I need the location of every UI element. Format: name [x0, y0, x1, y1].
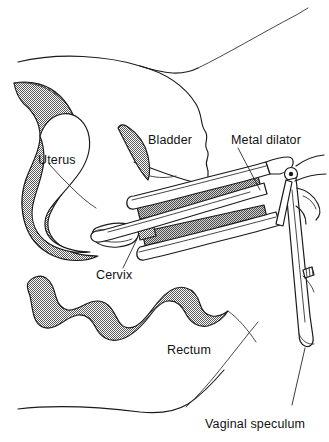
thumb-contour: [295, 174, 326, 181]
thigh-contour-line: [198, 8, 308, 68]
rectum-shaded-body: [27, 276, 228, 340]
uterus-structure: [14, 82, 98, 260]
rectum-structure: [27, 276, 256, 342]
vaginal-speculum-leader-line: [292, 348, 305, 405]
bladder-outer-wall: [140, 66, 209, 185]
bladder-structure: [118, 66, 209, 185]
label-rectum: Rectum: [167, 343, 211, 357]
abdominal-wall-contour: [18, 56, 198, 73]
finger-middle: [297, 188, 320, 220]
illustration-figure: Uterus Bladder Cervix Rectum Metal dilat…: [0, 0, 329, 442]
structure-labels: Uterus Bladder Cervix Rectum Metal dilat…: [38, 133, 305, 431]
lower-body-contour: [18, 370, 224, 413]
label-vaginal-speculum: Vaginal speculum: [205, 417, 305, 431]
label-metal-dilator: Metal dilator: [231, 133, 301, 147]
speculum-handle: [287, 178, 313, 347]
illustration-canvas: Uterus Bladder Cervix Rectum Metal dilat…: [0, 0, 329, 442]
perineum-contour: [186, 322, 258, 407]
rectum-anal-canal: [228, 311, 256, 342]
uterus-cavity: [32, 114, 90, 253]
label-bladder: Bladder: [148, 133, 192, 147]
bladder-shaded-wedge: [118, 125, 150, 180]
label-cervix: Cervix: [96, 268, 133, 282]
label-uterus: Uterus: [38, 153, 76, 167]
speculum-pivot-pin: [289, 172, 293, 176]
finger-upper: [296, 155, 324, 166]
